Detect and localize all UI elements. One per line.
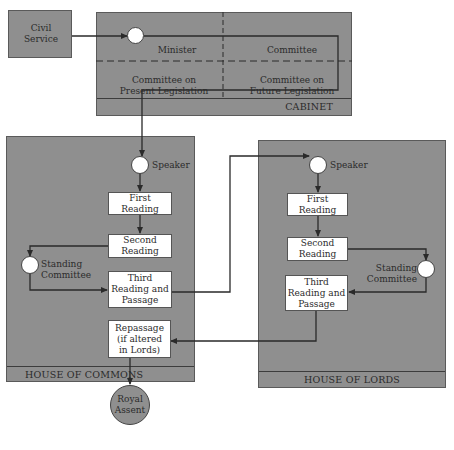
commons-standing-committee-label: Standing Committee — [41, 259, 89, 281]
lords-title-band: HOUSE OF LORDS — [259, 371, 445, 387]
lords-speaker-label: Speaker — [330, 160, 368, 171]
lords-second-reading-label: Second Reading — [296, 238, 340, 260]
cabinet-title: CABINET — [285, 101, 333, 112]
lords-standing-committee-node — [417, 260, 435, 278]
commons-second-reading-label: Second Reading — [118, 235, 162, 257]
civil-service-label: Civil Service — [21, 23, 61, 45]
cabinet-title-band: CABINET — [97, 98, 351, 115]
lords-third-reading-label: Third Reading and Passage — [286, 277, 347, 310]
royal-assent-node: Royal Assent — [110, 385, 150, 425]
commons-title: HOUSE OF COMMONS — [25, 369, 143, 380]
royal-assent-label: Royal Assent — [113, 394, 147, 416]
commons-third-reading-box: Third Reading and Passage — [108, 271, 172, 308]
lords-second-reading-box: Second Reading — [287, 237, 348, 261]
commons-title-band: HOUSE OF COMMONS — [7, 366, 194, 381]
civil-service-box: Civil Service — [8, 10, 72, 58]
lords-title: HOUSE OF LORDS — [304, 374, 400, 385]
lords-first-reading-box: First Reading — [287, 193, 348, 216]
commons-speaker-label: Speaker — [152, 160, 190, 171]
lords-standing-committee-label: Standing Committee — [365, 263, 417, 285]
commons-repassage-label: Repassage (if altered in Lords) — [112, 323, 168, 356]
present-legislation-label: Committee on Present Legislation — [119, 75, 209, 97]
lords-first-reading-label: First Reading — [298, 194, 338, 216]
commons-speaker-node — [131, 156, 149, 174]
commons-first-reading-box: First Reading — [108, 192, 172, 215]
minister-node — [127, 27, 144, 44]
commons-first-reading-label: First Reading — [120, 193, 160, 215]
commons-second-reading-box: Second Reading — [108, 234, 172, 258]
committee-label: Committee — [247, 45, 337, 56]
lords-speaker-node — [309, 156, 327, 174]
commons-third-reading-label: Third Reading and Passage — [109, 273, 171, 306]
commons-repassage-box: Repassage (if altered in Lords) — [108, 320, 171, 358]
future-legislation-label: Committee on Future Legislation — [247, 75, 337, 97]
commons-standing-committee-node — [21, 256, 39, 274]
lords-third-reading-box: Third Reading and Passage — [285, 275, 348, 311]
minister-label: Minister — [147, 45, 207, 56]
